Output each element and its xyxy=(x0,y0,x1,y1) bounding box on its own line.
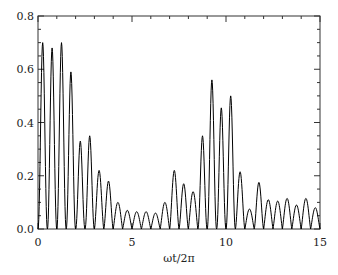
y-tick-label: 0.0 xyxy=(17,223,35,236)
y-tick-label: 0.2 xyxy=(17,170,35,183)
x-tick-label: 5 xyxy=(129,236,136,249)
x-axis-label: ωt/2π xyxy=(163,252,194,265)
chart: 0510150.00.20.40.60.8 ωt/2π xyxy=(0,0,338,275)
x-tick-label: 0 xyxy=(35,236,42,249)
plot-frame xyxy=(38,16,320,229)
y-tick-label: 0.8 xyxy=(17,10,35,23)
axis-ticks xyxy=(38,16,320,229)
y-tick-label: 0.4 xyxy=(17,117,35,130)
x-tick-label: 10 xyxy=(219,236,233,249)
peak-markers xyxy=(43,43,316,213)
plot-border xyxy=(38,16,320,229)
y-tick-label: 0.6 xyxy=(17,63,35,76)
x-tick-label: 15 xyxy=(313,236,327,249)
series-line xyxy=(38,43,320,229)
